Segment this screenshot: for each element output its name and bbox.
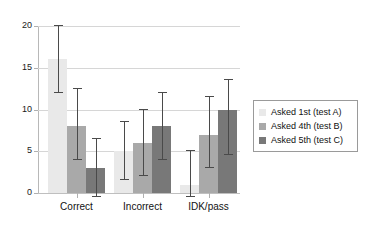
- error-bar-cap-upper: [224, 79, 233, 80]
- y-axis-tick-mark: [34, 193, 38, 194]
- error-bar-cap-upper: [92, 138, 101, 139]
- error-bar: [77, 89, 78, 160]
- error-bar-cap-lower: [92, 196, 101, 197]
- chart-legend: Asked 1st (test A)Asked 4th (test B)Aske…: [253, 100, 358, 152]
- y-axis-tick-label: 5: [4, 146, 32, 155]
- error-bar: [209, 97, 210, 168]
- legend-item-label: Asked 5th (test C): [271, 135, 343, 145]
- error-bar: [190, 151, 191, 197]
- error-bar-cap-upper: [205, 96, 214, 97]
- bar-group: [48, 26, 105, 193]
- error-bar-cap-lower: [139, 175, 148, 176]
- error-bar: [143, 110, 144, 177]
- error-bar-cap-lower: [186, 196, 195, 197]
- legend-item: Asked 1st (test A): [259, 105, 354, 119]
- x-axis-tick-mark: [143, 193, 144, 198]
- legend-item: Asked 5th (test C): [259, 133, 354, 147]
- x-axis-tick-mark: [77, 193, 78, 198]
- error-bar-cap-upper: [158, 92, 167, 93]
- bar-group: [114, 26, 171, 193]
- error-bar-cap-upper: [139, 109, 148, 110]
- y-axis-tick-mark: [34, 110, 38, 111]
- bar-chart: 05101520 CorrectIncorrectIDK/pass Asked …: [0, 0, 368, 242]
- y-axis-labels: 05101520: [0, 0, 32, 242]
- error-bar-cap-lower: [205, 167, 214, 168]
- legend-swatch-icon: [259, 123, 266, 130]
- legend-item-label: Asked 4th (test B): [271, 121, 343, 131]
- error-bar-cap-lower: [73, 159, 82, 160]
- legend-item-label: Asked 1st (test A): [271, 107, 342, 117]
- legend-item: Asked 4th (test B): [259, 119, 354, 133]
- y-axis-tick-label: 10: [4, 105, 32, 114]
- error-bar: [96, 139, 97, 197]
- error-bar: [58, 26, 59, 93]
- y-axis-tick-label: 0: [4, 188, 32, 197]
- error-bar: [162, 93, 163, 160]
- y-axis-tick-mark: [34, 26, 38, 27]
- bar-group: [180, 26, 237, 193]
- y-axis-tick-label: 20: [4, 21, 32, 30]
- legend-swatch-icon: [259, 137, 266, 144]
- x-axis-tick-mark: [209, 193, 210, 198]
- y-axis-tick-mark: [34, 68, 38, 69]
- error-bar-cap-upper: [120, 121, 129, 122]
- error-bar-cap-lower: [224, 154, 233, 155]
- y-axis-tick-label: 15: [4, 63, 32, 72]
- error-bar-cap-lower: [120, 179, 129, 180]
- error-bar-cap-lower: [54, 92, 63, 93]
- legend-swatch-icon: [259, 109, 266, 116]
- error-bar-cap-upper: [186, 150, 195, 151]
- error-bar: [124, 122, 125, 180]
- error-bar: [228, 80, 229, 155]
- error-bar-cap-upper: [54, 25, 63, 26]
- plot-area: [38, 26, 240, 193]
- error-bar-cap-upper: [73, 88, 82, 89]
- error-bar-cap-lower: [158, 159, 167, 160]
- x-axis-tick-label: IDK/pass: [169, 201, 249, 213]
- y-axis-tick-mark: [34, 151, 38, 152]
